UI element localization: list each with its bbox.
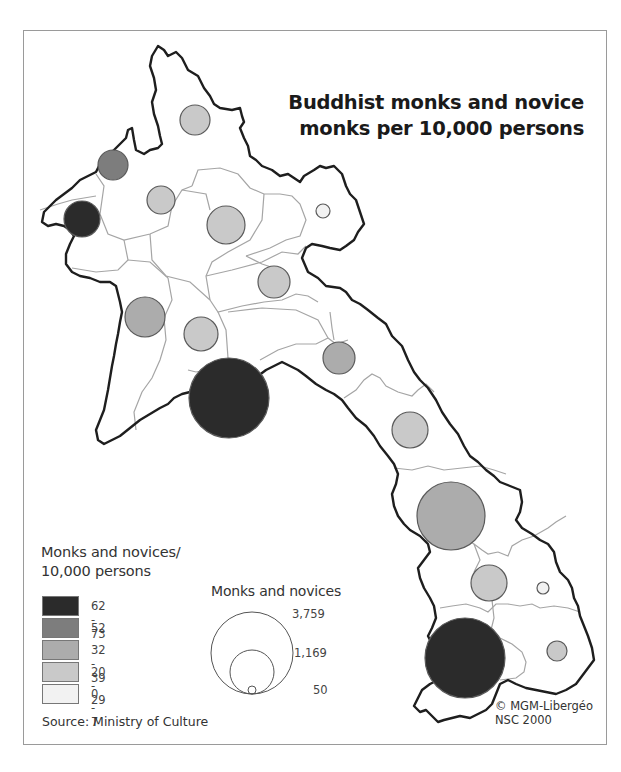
symbol-sayabury[interactable] <box>125 297 165 337</box>
legend-swatch <box>42 596 79 616</box>
symbol-khammouane[interactable] <box>392 412 428 448</box>
class-legend-title-line1: Monks and novices/ <box>41 543 180 562</box>
symbol-saravane[interactable] <box>471 565 507 601</box>
credit-line2: NSC 2000 <box>495 713 593 727</box>
symbol-luang-prabang[interactable] <box>207 206 245 244</box>
symbol-luang-namtha[interactable] <box>98 150 128 180</box>
size-legend-circles <box>211 612 293 694</box>
symbol-xiengkhuang[interactable] <box>258 266 290 298</box>
legend-swatch <box>42 618 79 638</box>
size-legend-value-large: 3,759 <box>292 607 325 621</box>
source-note: Source: Ministry of Culture <box>42 714 208 729</box>
legend-swatch <box>42 684 79 704</box>
size-legend-value-small: 50 <box>313 683 328 697</box>
symbol-sekong[interactable] <box>537 582 549 594</box>
symbol-bokeo[interactable] <box>64 201 100 237</box>
symbol-attapeu[interactable] <box>547 641 567 661</box>
size-legend-circle-large <box>211 612 293 694</box>
legend-swatch <box>42 640 79 660</box>
class-legend-title-line2: 10,000 persons <box>41 562 180 581</box>
symbol-savannakhet[interactable] <box>417 482 485 550</box>
legend-swatch <box>42 662 79 682</box>
copyright-credit: © MGM-Libergéo NSC 2000 <box>495 699 593 727</box>
map-title-line1: Buddhist monks and novice <box>288 90 584 116</box>
symbol-bolikhamxay[interactable] <box>323 342 355 374</box>
size-legend-circle-small <box>248 686 256 694</box>
size-legend-value-medium: 1,169 <box>294 646 327 660</box>
size-legend-title: Monks and novices <box>211 583 341 599</box>
symbol-oudomxay[interactable] <box>147 186 175 214</box>
symbol-phongsaly[interactable] <box>180 105 210 135</box>
class-legend-title: Monks and novices/ 10,000 persons <box>41 543 180 581</box>
credit-line1: © MGM-Libergéo <box>495 699 593 713</box>
legend-item-label: 52 <box>91 621 106 635</box>
symbol-houaphan[interactable] <box>316 204 330 218</box>
size-legend-circle-medium <box>230 650 274 694</box>
symbol-vientiane-province[interactable] <box>184 317 218 351</box>
symbol-vientiane-capital[interactable] <box>189 358 269 438</box>
symbol-champasak[interactable] <box>425 618 505 698</box>
map-title: Buddhist monks and novice monks per 10,0… <box>288 90 584 142</box>
map-title-line2: monks per 10,000 persons <box>288 116 584 142</box>
